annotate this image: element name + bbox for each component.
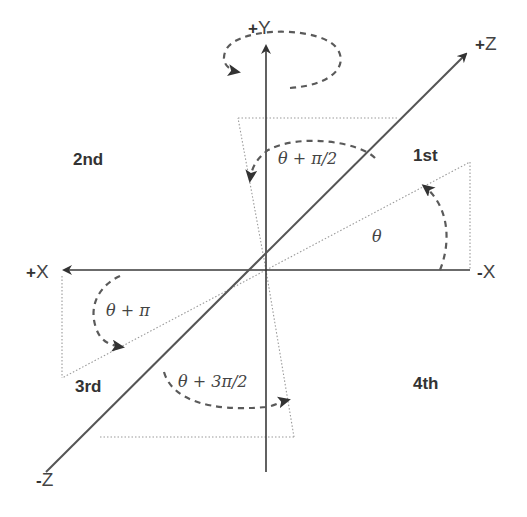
angle-label-q1: θ (372, 227, 382, 246)
theta-ray-q4 (266, 270, 294, 437)
theta-ray-q2 (238, 118, 266, 270)
axes (46, 46, 470, 472)
angle-label-q3: θ + π (106, 301, 150, 320)
label-pos-y: +Y (248, 17, 271, 38)
label-pos-z: +Z (475, 33, 497, 54)
angle-arc-q1 (424, 186, 447, 270)
rotation-quadrant-diagram: +Y +Z -Z +X -X 1st 2nd 3rd 4th θ θ + π/2… (0, 0, 527, 517)
label-neg-z: -Z (36, 469, 54, 490)
quadrant-label-2nd: 2nd (73, 150, 103, 169)
y-rotation-arc (224, 32, 341, 88)
label-pos-x: +X (26, 261, 49, 282)
quadrant-label-3rd: 3rd (75, 377, 101, 396)
angle-label-q2: θ + π/2 (278, 149, 337, 168)
quadrant-label-4th: 4th (413, 374, 439, 393)
angle-label-q4: θ + 3π/2 (178, 372, 247, 391)
theta-ray-q3 (62, 270, 266, 378)
theta-ray-q1 (266, 162, 470, 270)
label-neg-x: -X (477, 261, 496, 282)
z-axis (46, 54, 466, 472)
quadrant-label-1st: 1st (413, 146, 438, 165)
